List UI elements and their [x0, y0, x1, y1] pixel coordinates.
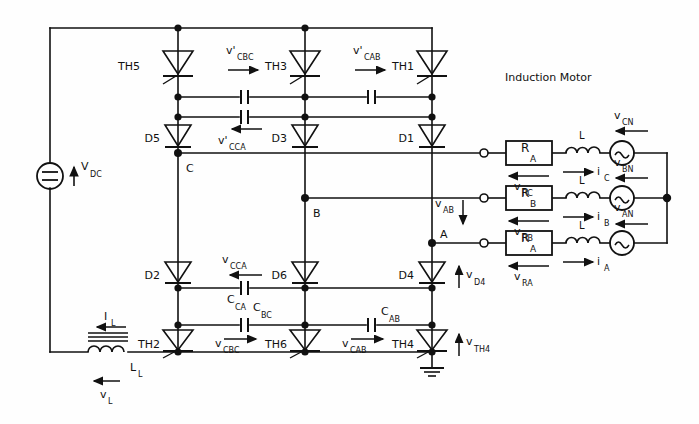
v-an-label-main: v: [614, 201, 621, 214]
diode-d5[interactable]: D5: [145, 125, 191, 147]
junction-dots: [174, 24, 671, 355]
thyristor-th6-label: TH6: [264, 338, 287, 351]
induction-motor-annotation: Induction Motor: [505, 71, 592, 84]
vp-cbc-label-main: v': [226, 44, 236, 57]
cap-cca-label-main: C: [227, 293, 235, 306]
il-label-sub: L: [111, 319, 116, 328]
v-th4-label-sub: TH4: [473, 345, 490, 354]
inductor-lb-label: L: [579, 175, 585, 186]
capacitor-cab: [368, 318, 375, 332]
motor-terminals[interactable]: [480, 149, 488, 247]
diode-d5-label: D5: [145, 132, 160, 145]
diode-d2[interactable]: D2: [145, 262, 191, 283]
v-cbc-label-main: v: [215, 337, 222, 350]
diode-d6-label: D6: [272, 269, 287, 282]
v-th4-label-main: v: [466, 335, 473, 348]
vp-cbc-label-sub: CBC: [237, 53, 254, 62]
cap-cca-label-sub: CA: [235, 303, 247, 312]
vp-cab-label-main: v': [353, 44, 363, 57]
thyristor-th3[interactable]: TH3: [264, 51, 320, 84]
v-cbc-label-sub: CBC: [223, 346, 240, 355]
v-rc-label-sub: RC: [522, 189, 533, 198]
earth-ground-icon: [420, 352, 444, 376]
vp-cca-label-main: v': [218, 134, 228, 147]
dc-voltage-label-main: V: [81, 160, 89, 173]
vp-cab-label-sub: CAB: [364, 53, 381, 62]
v-cn-label-main: v: [614, 109, 621, 122]
capacitor-cbc: [241, 318, 248, 332]
dc-voltage-label-sub: DC: [90, 170, 102, 179]
v-cab-label-main: v: [342, 337, 349, 350]
thyristor-th3-label: TH3: [264, 60, 287, 73]
resistor-ra-label-sub: A: [530, 244, 537, 254]
v-rc-label-main: v: [514, 180, 521, 193]
resistor-rc-label-main: R: [521, 141, 529, 155]
diode-d6[interactable]: D6: [272, 262, 318, 283]
cap-cbc-label-sub: BC: [261, 311, 272, 320]
thyristor-th5[interactable]: TH5: [117, 51, 193, 84]
dc-voltage-source[interactable]: [37, 163, 63, 189]
dc-loop-wires: [50, 28, 178, 352]
thyristor-th4-label: TH4: [391, 338, 414, 351]
v-cca-label-sub: CCA: [230, 262, 247, 271]
v-d4-label-main: v: [466, 268, 473, 281]
v-rb-label-sub: RB: [522, 234, 533, 243]
v-an-label-sub: AN: [622, 210, 633, 219]
il-label-main: I: [104, 310, 107, 323]
v-bn-label-sub: BN: [622, 165, 633, 174]
thyristor-th2[interactable]: TH2: [137, 330, 193, 358]
i-c-label-main: i: [597, 165, 600, 178]
diode-d1[interactable]: D1: [399, 125, 445, 147]
emf-source-a: [610, 231, 634, 255]
thyristor-th1-label: TH1: [391, 60, 414, 73]
i-a-label-sub: A: [604, 264, 610, 273]
diode-d1-label: D1: [399, 132, 414, 145]
vl-label-sub: L: [108, 397, 113, 406]
v-d4-label-sub: D4: [474, 278, 485, 287]
resistor-rb-label-sub: B: [530, 199, 536, 209]
diode-d4[interactable]: D4: [399, 262, 445, 283]
thyristor-th5-label: TH5: [117, 60, 140, 73]
resistor-rc-label-sub: A: [530, 154, 537, 164]
v-ab-label-sub: AB: [443, 206, 454, 215]
thyristor-th2-label: TH2: [137, 338, 160, 351]
capacitor-cab-prime: [368, 90, 375, 104]
ll-label-main: L: [130, 361, 137, 374]
diode-d3[interactable]: D3: [272, 125, 318, 147]
circuit-diagram-canvas: TH5 TH3 TH1 D5 D3 D1 D2 D6: [0, 0, 699, 424]
thyristor-th6[interactable]: TH6: [264, 330, 320, 358]
v-ra-label-main: v: [514, 270, 521, 283]
thyristor-th4[interactable]: TH4: [391, 330, 447, 358]
v-rb-label-main: v: [514, 225, 521, 238]
capacitor-cbc-prime: [241, 90, 248, 104]
v-cn-label-sub: CN: [622, 118, 634, 127]
inductor-lc-label: L: [579, 130, 585, 141]
ll-label-sub: L: [138, 370, 143, 379]
capacitor-cca-prime: [241, 110, 248, 124]
diode-d3-label: D3: [272, 132, 287, 145]
cap-cbc-label-main: C: [253, 301, 261, 314]
node-label-c: C: [186, 162, 194, 175]
i-a-label-main: i: [597, 255, 600, 268]
dc-link-inductor[interactable]: [88, 333, 128, 352]
i-c-label-sub: C: [604, 174, 610, 183]
thyristor-th1[interactable]: TH1: [391, 51, 447, 84]
v-bn-label-main: v: [614, 156, 621, 169]
vp-cca-label-sub: CCA: [229, 143, 246, 152]
i-b-label-sub: B: [604, 219, 610, 228]
cap-cab-label-sub: AB: [389, 315, 400, 324]
v-ra-label-sub: RA: [522, 279, 533, 288]
schematic-svg: TH5 TH3 TH1 D5 D3 D1 D2 D6: [0, 0, 699, 424]
diode-d4-label: D4: [399, 269, 414, 282]
diode-d2-label: D2: [145, 269, 160, 282]
node-label-b: B: [313, 207, 321, 220]
node-label-a: A: [440, 228, 448, 241]
inductor-la-label: L: [579, 220, 585, 231]
cap-cab-label-main: C: [381, 305, 389, 318]
vl-label-main: v: [100, 388, 107, 401]
v-cab-label-sub: CAB: [350, 346, 367, 355]
capacitor-cca: [241, 281, 248, 295]
i-b-label-main: i: [597, 210, 600, 223]
v-cca-label-main: v: [222, 253, 229, 266]
v-ab-label-main: v: [435, 197, 442, 210]
